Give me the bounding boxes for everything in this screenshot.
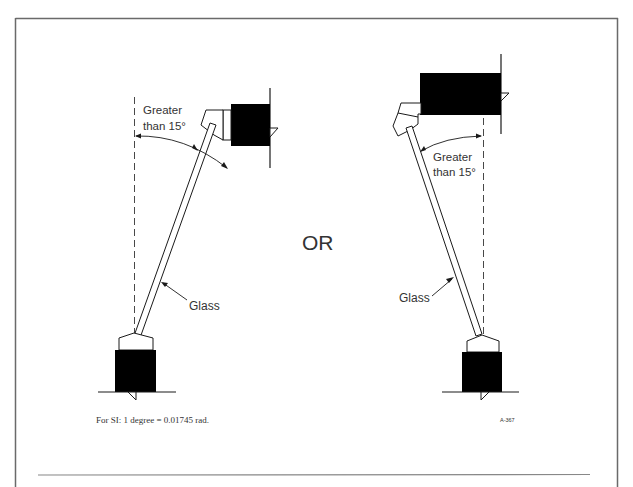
head-frame-block [420, 73, 501, 115]
angle-label-line1: Greater [143, 104, 182, 116]
glass-leader-line [163, 283, 187, 300]
angle-arc [421, 136, 481, 151]
sloped-glazing-figure: Greater than 15° Glass OR Greater [0, 0, 633, 487]
arc-arrowhead-left [135, 134, 141, 139]
sill-cap [119, 333, 153, 350]
sill-drip-triangle [481, 392, 489, 400]
head-drip-triangle [270, 128, 278, 137]
head-stop-strip [223, 110, 231, 140]
or-separator: OR [302, 231, 334, 254]
arc-arrowhead-left [420, 146, 426, 152]
left-diagram: Greater than 15° Glass [98, 88, 278, 400]
arc-arrowhead-right [221, 162, 228, 169]
angle-arc [136, 136, 227, 168]
si-conversion-footnote: For SI: 1 degree = 0.01745 rad. [96, 415, 209, 425]
sill-drip-triangle [128, 392, 136, 400]
right-diagram: Greater than 15° Glass [393, 54, 519, 400]
sill-frame-block [462, 352, 502, 392]
head-frame-block [231, 104, 270, 146]
angle-label-line2: than 15° [433, 166, 476, 178]
glass-label: Glass [189, 299, 220, 313]
head-drip-triangle [501, 93, 509, 101]
arc-arrowhead-right [476, 134, 482, 139]
sill-cap [467, 335, 499, 352]
angle-label-line2: than 15° [143, 120, 186, 132]
glass-label: Glass [399, 291, 430, 305]
angle-label-line1: Greater [433, 151, 472, 163]
arc-arrowhead-glass [192, 144, 198, 151]
glass-leader-arrowhead [446, 277, 454, 283]
sill-frame-block [115, 350, 156, 392]
bottom-rule [38, 475, 590, 476]
figure-id-label: A-367 [500, 417, 515, 423]
